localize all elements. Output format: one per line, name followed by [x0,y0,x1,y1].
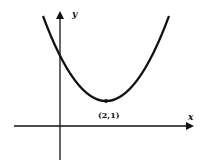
parabola-curve [43,16,169,101]
x-axis-arrow-icon [186,122,194,130]
vertex-point [104,99,108,103]
y-axis-label: y [71,9,78,19]
x-axis-label: x [187,112,194,122]
vertex-label: (2,1) [98,110,120,120]
y-axis-arrow-icon [56,11,64,19]
x-axis [14,122,194,130]
y-axis [56,11,64,160]
parabola-diagram: y x (2,1) [0,0,204,166]
